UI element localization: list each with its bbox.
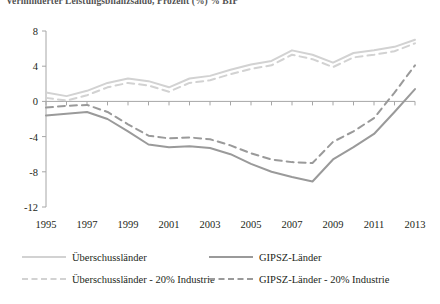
y-axis-tick-label: -4 (29, 132, 38, 143)
plot-area: 840-4-8-12 19951997199920012003200520072… (0, 0, 440, 240)
y-axis-tick-label: 4 (33, 61, 39, 72)
y-axis-tick-label: 8 (33, 26, 38, 37)
x-axis-tick-label: 2011 (364, 219, 385, 230)
series-line-0 (46, 40, 415, 96)
legend-label: GIPSZ-Länder (259, 252, 321, 263)
x-axis-tick-label: 2001 (159, 219, 180, 230)
legend-swatch-line (22, 256, 66, 258)
legend-label: Überschussländer - 20% Industrie (72, 274, 215, 285)
series-line-3 (46, 65, 415, 163)
legend-label: GIPSZ-Länder - 20% Industrie (259, 274, 389, 285)
x-axis-tick-label: 2013 (405, 219, 426, 230)
x-axis-tick-label: 2003 (200, 219, 221, 230)
x-axis-tick-label: 1997 (77, 219, 98, 230)
x-axis-tick-label: 1999 (118, 219, 139, 230)
legend-swatch-dashed-line (209, 278, 253, 280)
legend-item-gipsz-lander: GIPSZ-Länder (205, 252, 440, 263)
x-axis-tick-label: 2005 (241, 219, 262, 230)
chart-root: Verminderter Leistungsbilanzsaldo, Proze… (0, 0, 440, 304)
data-series-group (46, 40, 415, 182)
y-axis: 840-4-8-12 (24, 26, 46, 213)
line-chart-svg: 840-4-8-12 19951997199920012003200520072… (0, 0, 440, 240)
y-axis-tick-label: -8 (29, 167, 38, 178)
x-axis: 1995199719992001200320052007200920112013 (36, 101, 426, 230)
chart-legend: Überschussländer GIPSZ-Länder Überschuss… (0, 246, 440, 290)
legend-swatch-dashed-line (22, 278, 66, 280)
legend-item-uberschusslander-20-industrie: Überschussländer - 20% Industrie (0, 274, 205, 285)
x-axis-tick-label: 1995 (36, 219, 57, 230)
y-axis-tick-label: -12 (24, 202, 38, 213)
y-axis-tick-label: 0 (33, 96, 38, 107)
x-axis-tick-label: 2007 (282, 219, 303, 230)
x-axis-tick-label: 2009 (323, 219, 344, 230)
legend-label: Überschussländer (72, 252, 147, 263)
legend-item-gipsz-lander-20-industrie: GIPSZ-Länder - 20% Industrie (205, 274, 440, 285)
legend-swatch-line (209, 256, 253, 258)
legend-item-uberschusslander: Überschussländer (0, 252, 205, 263)
